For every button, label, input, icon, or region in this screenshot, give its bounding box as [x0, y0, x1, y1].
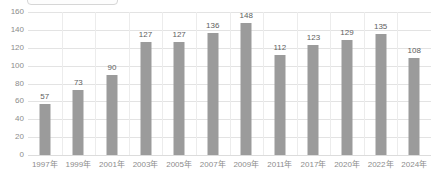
x-tick-label: 2003年 [133, 160, 159, 169]
bar-chart: 020406080100120140160 571997年731999年9020… [0, 0, 439, 178]
bar[interactable] [241, 23, 252, 155]
bar-group: 731999年 [62, 12, 96, 155]
bar-group: 1362007年 [196, 12, 230, 155]
bar-group: 1122011年 [263, 12, 297, 155]
x-tick-label: 2020年 [334, 160, 360, 169]
bar[interactable] [174, 42, 185, 156]
x-tick-label: 2017年 [301, 160, 327, 169]
bar-value-label: 135 [374, 23, 387, 31]
bar-value-label: 127 [172, 31, 185, 39]
bar-group: 1082024年 [397, 12, 431, 155]
x-tick-label: 2011年 [267, 160, 292, 169]
bar[interactable] [308, 45, 319, 155]
bar-value-label: 136 [206, 22, 219, 30]
x-tick-label: 2007年 [200, 160, 226, 169]
bar-value-label: 90 [107, 64, 116, 72]
y-tick-label: 100 [11, 62, 24, 70]
bar[interactable] [39, 104, 50, 155]
bar[interactable] [375, 34, 386, 155]
y-tick-label: 120 [11, 44, 24, 52]
bar-group: 1232017年 [297, 12, 331, 155]
bar[interactable] [342, 40, 353, 155]
y-tick-label: 40 [15, 115, 24, 123]
y-tick-label: 60 [15, 97, 24, 105]
y-tick-label: 140 [11, 26, 24, 34]
bar-group: 1292020年 [330, 12, 364, 155]
bar-group: 1352022年 [364, 12, 398, 155]
bar-value-label: 129 [340, 29, 353, 37]
x-tick-label: 2024年 [401, 160, 427, 169]
x-tick-label: 2005年 [166, 160, 192, 169]
bar[interactable] [106, 75, 117, 155]
x-tick-label: 2009年 [233, 160, 259, 169]
y-tick-label: 160 [11, 8, 24, 16]
x-tick-label: 2001年 [99, 160, 125, 169]
y-tick-label: 80 [15, 80, 24, 88]
bar[interactable] [140, 42, 151, 156]
bar-value-label: 112 [273, 44, 286, 52]
bar-value-label: 123 [307, 34, 320, 42]
bar-group: 1272003年 [129, 12, 163, 155]
bar-group: 902001年 [95, 12, 129, 155]
x-tick-label: 1999年 [65, 160, 91, 169]
bar[interactable] [274, 55, 285, 155]
bar-group: 571997年 [28, 12, 62, 155]
bar-value-label: 73 [74, 79, 83, 87]
bar-value-label: 148 [240, 12, 253, 20]
bar-value-label: 57 [40, 93, 49, 101]
y-tick-label: 20 [15, 133, 24, 141]
bar-group: 1482009年 [230, 12, 264, 155]
bar-series: 571997年731999年902001年1272003年1272005年136… [28, 12, 431, 155]
plot-area: 020406080100120140160 571997年731999年9020… [28, 12, 431, 155]
x-tick-label: 1997年 [32, 160, 58, 169]
screenshot-root: 020406080100120140160 571997年731999年9020… [0, 0, 439, 178]
bar[interactable] [73, 90, 84, 155]
bar-group: 1272005年 [162, 12, 196, 155]
bar[interactable] [207, 33, 218, 155]
gridline-y-0 [28, 155, 431, 156]
y-tick-label: 0 [20, 151, 24, 159]
bar[interactable] [409, 58, 420, 155]
x-tick-label: 2022年 [368, 160, 394, 169]
bar-value-label: 108 [408, 47, 421, 55]
bar-value-label: 127 [139, 31, 152, 39]
